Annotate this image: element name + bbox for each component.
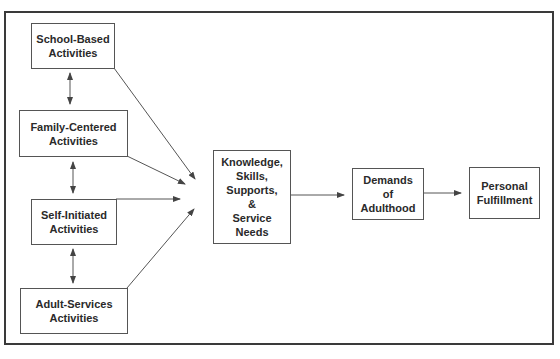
node-label: Adult-Services: [35, 297, 112, 311]
node-knowledge-skills-supports: Knowledge, Skills, Supports, & Service N…: [213, 150, 291, 244]
node-self-initiated-activities: Self-Initiated Activities: [31, 199, 117, 245]
node-label: Activities: [49, 134, 98, 148]
node-label: &: [248, 197, 256, 211]
node-label: School-Based: [36, 32, 109, 46]
node-label: Service: [232, 211, 271, 225]
node-label: Demands: [363, 173, 413, 187]
arrow-family-to-knowledge: [127, 156, 185, 184]
node-school-based-activities: School-Based Activities: [31, 23, 115, 69]
node-demands-of-adulthood: Demands of Adulthood: [352, 168, 424, 220]
node-label: Activities: [49, 46, 98, 60]
node-label: Personal: [481, 179, 527, 193]
arrow-adult-to-knowledge: [127, 209, 194, 288]
node-label: Activities: [50, 311, 99, 325]
node-label: Adulthood: [361, 201, 416, 215]
node-adult-services-activities: Adult-Services Activities: [20, 288, 128, 334]
node-label: Self-Initiated: [41, 208, 107, 222]
node-family-centered-activities: Family-Centered Activities: [19, 110, 128, 157]
node-label: Needs: [235, 225, 268, 239]
node-label: of: [383, 187, 393, 201]
node-label: Activities: [50, 222, 99, 236]
node-label: Family-Centered: [30, 120, 116, 134]
node-label: Knowledge,: [221, 155, 283, 169]
node-label: Supports,: [226, 183, 277, 197]
node-label: Skills,: [236, 169, 268, 183]
node-label: Fulfillment: [477, 193, 533, 207]
node-personal-fulfillment: Personal Fulfillment: [469, 167, 540, 219]
